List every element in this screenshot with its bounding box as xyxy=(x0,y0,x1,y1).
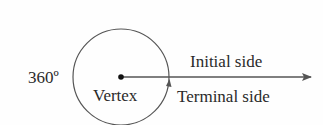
angle-label: 360º xyxy=(28,68,59,87)
initial-side-label: Initial side xyxy=(190,52,262,71)
vertex-point xyxy=(118,74,124,80)
vertex-label: Vertex xyxy=(93,86,138,105)
angle-diagram: 360º Vertex Initial side Terminal side xyxy=(0,0,323,125)
terminal-side-label: Terminal side xyxy=(177,87,270,106)
